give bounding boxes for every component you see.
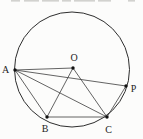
point-label-B: B (42, 123, 49, 134)
segment-AO (15, 68, 73, 70)
clipped-text-artifact (11, 0, 20, 2)
point-dot-A (13, 68, 16, 71)
point-label-A: A (2, 64, 10, 75)
segment-AC (15, 70, 107, 117)
geometry-figure: OAPBC (0, 0, 143, 139)
segment-OC (73, 68, 107, 117)
point-dot-B (45, 115, 48, 118)
point-label-P: P (131, 83, 137, 94)
circle-diagram: OAPBC (0, 0, 143, 139)
clipped-text-artifact (42, 0, 59, 2)
clipped-text-artifact (74, 0, 95, 2)
clipped-text-artifact (62, 0, 71, 2)
clipped-text-artifact (98, 0, 111, 2)
point-dot-O (71, 66, 74, 69)
clipped-text-artifact (128, 0, 135, 2)
point-label-C: C (105, 124, 112, 135)
clipped-text-artifact (24, 0, 39, 2)
point-dot-C (105, 115, 108, 118)
point-label-O: O (70, 52, 77, 63)
segment-CP (107, 86, 126, 117)
point-dot-P (124, 84, 127, 87)
